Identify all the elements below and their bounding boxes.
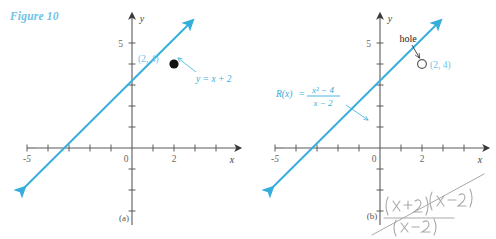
- axis-y-label-a: y: [139, 13, 145, 24]
- ytick-label-five-a: 5: [118, 39, 123, 49]
- xtick-label-zero-a: 0: [124, 154, 129, 164]
- xtick-label-two-b: 2: [420, 154, 425, 164]
- point-label-2-4-b: (2, 4): [430, 60, 451, 71]
- function-numerator: x² − 4: [311, 85, 334, 95]
- function-expression-b: R(x) = x² − 4 x − 2: [275, 85, 340, 108]
- equation-label-a: y = x + 2: [195, 74, 232, 84]
- axis-y-label-b: y: [387, 13, 393, 24]
- handwritten-annotation: [366, 172, 496, 239]
- equation-pointer-a: [178, 58, 196, 72]
- ytick-label-five-b: 5: [366, 39, 371, 49]
- hole-label: hole: [399, 33, 417, 44]
- caption-a: (a): [0, 213, 248, 223]
- xtick-label-two-a: 2: [172, 154, 177, 164]
- xtick-label-neg5-b: -5: [271, 154, 279, 164]
- line-y-equals-x-plus-2: [22, 23, 190, 190]
- xtick-label-zero-b: 0: [372, 154, 377, 164]
- hole-pointer: [412, 45, 420, 58]
- axis-x-label-a: x: [229, 154, 235, 165]
- svg-text:=: =: [299, 89, 304, 99]
- axis-y-a: [129, 16, 136, 225]
- line-R-of-x: [270, 23, 438, 190]
- xtick-label-neg5-a: -5: [23, 154, 31, 164]
- point-label-2-4-a: (2, 4): [138, 54, 159, 65]
- axis-x-label-b: x: [477, 154, 483, 165]
- panel-a: -5 0 2 5 x y (2, 4) y = x + 2 (a): [0, 0, 248, 239]
- point-2-4-hole: [418, 60, 427, 69]
- function-denominator: x − 2: [312, 98, 333, 108]
- figure-10-container: Figure 10: [0, 0, 496, 239]
- point-2-4-filled: [169, 59, 178, 68]
- svg-text:R(x): R(x): [275, 89, 292, 100]
